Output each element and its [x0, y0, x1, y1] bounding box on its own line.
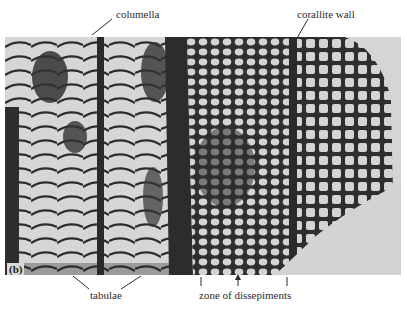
leader-lines [0, 0, 406, 309]
columella-leader-line [92, 19, 112, 35]
tabulae-leader-left [73, 276, 89, 289]
corallite-wall-label: corallite wall [297, 8, 355, 20]
zone-of-dissepiments-label: zone of dissepiments [199, 289, 291, 301]
tabulae-label: tabulae [90, 289, 122, 301]
columella-label: columella [116, 8, 159, 20]
corallite-wall-leader-line [296, 19, 308, 40]
tabulae-leader-right [121, 276, 141, 289]
arrow-up-icon [235, 274, 241, 280]
